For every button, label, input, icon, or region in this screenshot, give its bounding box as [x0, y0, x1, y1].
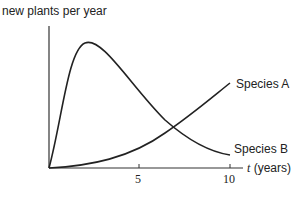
species-b-label: Species B — [234, 142, 288, 156]
y-axis-label: new plants per year — [2, 4, 107, 18]
x-tick-label-10: 10 — [223, 172, 235, 187]
x-axis-variable: t — [247, 161, 250, 175]
x-axis-unit: (years) — [254, 161, 291, 175]
x-axis-label: t (years) — [247, 161, 291, 176]
x-tick-label-5: 5 — [135, 172, 141, 187]
species-a-curve — [49, 83, 230, 168]
species-a-label: Species A — [236, 77, 289, 91]
